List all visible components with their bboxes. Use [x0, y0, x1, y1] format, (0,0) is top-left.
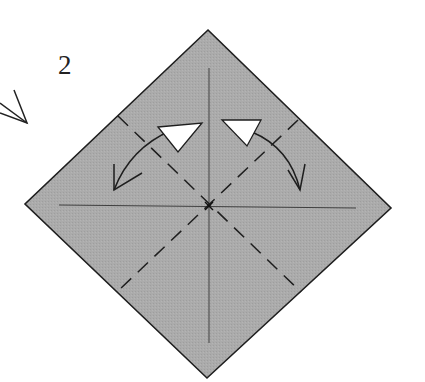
previous-step-arrowhead-icon [0, 90, 27, 123]
paper-square [25, 30, 391, 378]
diagram-canvas [0, 0, 425, 382]
origami-diagram: 2 [0, 0, 425, 382]
